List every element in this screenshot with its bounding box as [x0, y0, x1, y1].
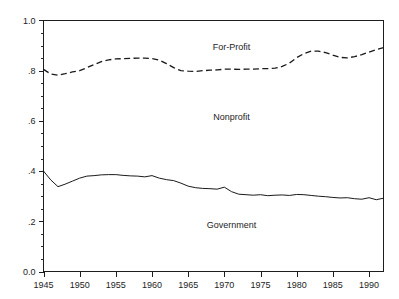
- plot-frame: [44, 21, 384, 272]
- y-tick-label: 0.0: [23, 267, 36, 277]
- area-labels: For-ProfitNonprofitGovernment: [207, 42, 257, 230]
- area-label-for-profit: For-Profit: [213, 42, 251, 52]
- x-tick-label: 1965: [178, 280, 198, 290]
- chart-page: ........ 0.0.2.4.6.81.0 1945195019551960…: [0, 0, 399, 299]
- x-tick-label: 1985: [323, 280, 343, 290]
- y-tick-label: .8: [28, 66, 36, 76]
- y-axis-tick-labels: 0.0.2.4.6.81.0: [23, 16, 36, 277]
- x-axis-tick-labels: 1945195019551960196519701975198019851990: [33, 280, 379, 290]
- x-tick-label: 1955: [106, 280, 126, 290]
- x-tick-label: 1960: [142, 280, 162, 290]
- line-chart: 0.0.2.4.6.81.0 1945195019551960196519701…: [0, 0, 399, 299]
- x-tick-label: 1970: [214, 280, 234, 290]
- y-tick-label: 1.0: [23, 16, 36, 26]
- y-tick-label: .4: [28, 166, 36, 176]
- series-line-government-boundary: [44, 171, 384, 200]
- axis-frame: [44, 21, 384, 272]
- area-label-government: Government: [207, 220, 257, 230]
- x-tick-label: 1945: [33, 280, 53, 290]
- x-tick-label: 1990: [359, 280, 379, 290]
- y-axis-ticks: [39, 21, 44, 273]
- y-tick-label: .2: [28, 217, 36, 227]
- x-tick-label: 1975: [251, 280, 271, 290]
- series-group: [44, 48, 384, 200]
- y-tick-label: .6: [28, 116, 36, 126]
- x-tick-label: 1980: [287, 280, 307, 290]
- x-tick-label: 1950: [70, 280, 90, 290]
- x-axis-ticks: [45, 272, 370, 277]
- area-label-nonprofit: Nonprofit: [213, 112, 250, 122]
